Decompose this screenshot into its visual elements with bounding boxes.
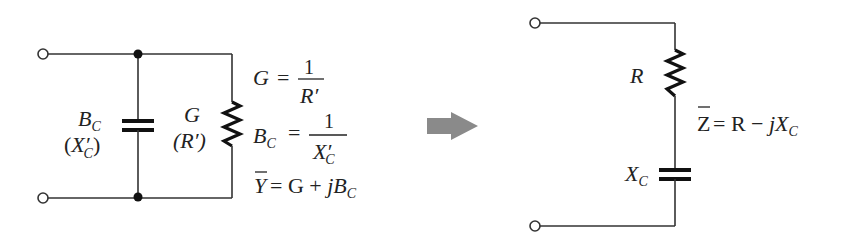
resistor-zigzag bbox=[224, 102, 240, 146]
parallel-circuit: BC (X′C) G (R′) G = 1 R′ BC = 1 X′C bbox=[38, 49, 357, 203]
eq-bc-denominator: X′C bbox=[312, 139, 335, 167]
eq-g-denominator: R′ bbox=[299, 83, 319, 108]
series-resistor-zigzag bbox=[667, 50, 683, 96]
resistor-alt-label: (R′) bbox=[173, 128, 206, 153]
admittance-equations: G = 1 R′ BC = 1 X′C Y = G + jBC bbox=[253, 56, 357, 201]
resistor-label: G bbox=[184, 102, 200, 127]
series-capacitor-label: XC bbox=[624, 161, 648, 189]
eq-bc-numerator: 1 bbox=[324, 110, 334, 132]
eq-y-lhs: Y bbox=[254, 173, 269, 198]
series-terminal-bottom bbox=[530, 221, 540, 231]
capacitor-alt-label: (X′C) bbox=[64, 132, 100, 161]
eq-g-lhs: G bbox=[253, 65, 269, 90]
eq-y-rhs: = G + jBC bbox=[270, 173, 357, 201]
eq-bc-equals: = bbox=[288, 120, 300, 145]
eq-bc-lhs: BC bbox=[253, 123, 276, 151]
eq-g-equals: = bbox=[277, 65, 289, 90]
eq-z-rhs: = R − jXC bbox=[713, 111, 799, 139]
terminal-top bbox=[38, 49, 48, 59]
circuit-diagram: BC (X′C) G (R′) G = 1 R′ BC = 1 X′C bbox=[0, 0, 850, 239]
transform-arrow-icon bbox=[427, 112, 478, 140]
junction-dot-bottom bbox=[134, 193, 143, 202]
series-circuit: R XC Z = R − jXC bbox=[530, 18, 799, 231]
terminal-bottom bbox=[38, 193, 48, 203]
series-terminal-top bbox=[530, 18, 540, 28]
eq-z-lhs: Z bbox=[697, 111, 710, 136]
junction-dot-top bbox=[134, 50, 143, 59]
capacitor-label: BC bbox=[78, 106, 101, 134]
series-resistor-label: R bbox=[629, 63, 644, 88]
eq-g-numerator: 1 bbox=[304, 56, 314, 78]
